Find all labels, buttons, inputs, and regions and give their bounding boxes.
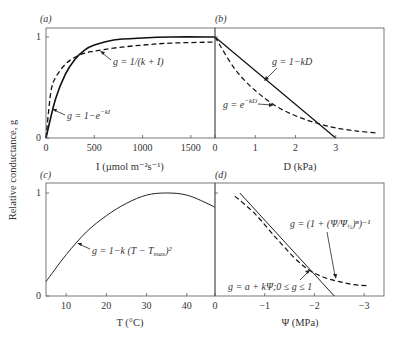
y-tick-label: 1 [36, 31, 41, 42]
x-tick-label: 0 [44, 142, 49, 153]
y-tick-label: 1 [36, 187, 41, 198]
x-label-c: T (°C) [116, 317, 144, 329]
eq-a2: g = 1−e−kI [67, 108, 111, 121]
series-exp-saturation [46, 37, 215, 138]
x-tick-label: −1 [259, 300, 270, 311]
x-tick-label: 1000 [133, 142, 153, 153]
x-tick-label: 1500 [181, 142, 201, 153]
eq-b1: g = 1−kD [272, 56, 313, 67]
x-tick-label: 3 [333, 142, 338, 153]
y-axis-label: Relative conductance, g [7, 119, 18, 220]
x-tick-label: 10 [61, 300, 71, 311]
x-tick-label: 0 [213, 142, 218, 153]
eq-d2: g = a + kΨ;0 ≤ g ≤ 1 [228, 281, 312, 292]
panel-a: (a) 05001000150001 g = 1/(k + I) g = 1−e… [36, 13, 215, 173]
panel-b-label: (b) [215, 13, 227, 25]
x-label-b: D (kPa) [284, 161, 317, 173]
eq-a1: g = 1/(k + I) [113, 56, 164, 68]
eq-b2: g = e−kD [223, 97, 257, 110]
x-tick-label: −3 [359, 300, 370, 311]
x-tick-label: 1 [253, 142, 258, 153]
x-tick-label: 40 [182, 300, 192, 311]
panel-c: (c) 1020304001 g = 1−k (T − Tmax)² T (°C… [36, 169, 215, 329]
panel-d: (d) 0−1−2−3 g = (1 + (Ψ/Ψ½)ⁿ)⁻¹ g = a + … [213, 169, 385, 329]
y-tick-label: 0 [36, 290, 41, 301]
x-tick-label: 500 [87, 142, 102, 153]
eq-d1: g = (1 + (Ψ/Ψ½)ⁿ)⁻¹ [290, 218, 370, 231]
x-tick-label: 2 [293, 142, 298, 153]
x-tick-label: 0 [213, 300, 218, 311]
x-tick-label: −2 [309, 300, 320, 311]
panel-c-label: (c) [40, 169, 52, 181]
x-label-a: I (µmol m⁻²s⁻¹) [96, 161, 164, 173]
x-tick-label: 30 [142, 300, 152, 311]
figure: Relative conductance, g (a) 050010001500… [0, 0, 398, 338]
x-label-d: Ψ (MPa) [281, 317, 319, 329]
x-tick-label: 20 [101, 300, 111, 311]
panel-d-label: (d) [215, 169, 227, 181]
series-temperature [46, 193, 215, 282]
y-tick-label: 0 [36, 132, 41, 143]
eq-c1: g = 1−k (T − Tmax)² [92, 245, 172, 258]
panel-b: (b) 0123 g = 1−kD g = e−kD D (kPa) [213, 13, 385, 173]
series-exp-vpd [215, 37, 376, 133]
panel-a-label: (a) [40, 13, 52, 25]
